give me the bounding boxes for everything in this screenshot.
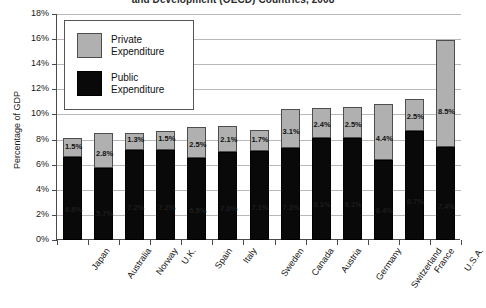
bar-segment-private: 2.4% bbox=[312, 108, 331, 138]
bar-value-label-public: 8.7% bbox=[405, 198, 426, 206]
bar-segment-public: 8.1% bbox=[343, 138, 362, 240]
x-tick-mark bbox=[119, 240, 120, 245]
bar-segment-public: 7.0% bbox=[218, 152, 237, 240]
legend-item-public: Public Expenditure bbox=[77, 71, 164, 96]
bar-segment-private: 2.5% bbox=[187, 127, 206, 158]
x-axis-label: U.S.A. bbox=[463, 246, 486, 273]
bar-value-label-public: 8.1% bbox=[312, 201, 333, 209]
x-tick-mark bbox=[368, 240, 369, 245]
bar-value-label-private: 1.3% bbox=[125, 136, 146, 144]
bar-value-label-private: 1.5% bbox=[156, 135, 177, 143]
legend-public-line1: Public bbox=[111, 72, 138, 83]
bar-segment-private: 1.7% bbox=[250, 130, 269, 151]
bar-segment-private: 1.5% bbox=[156, 131, 175, 150]
bar-segment-public: 8.1% bbox=[312, 138, 331, 240]
legend-private-text: Private Expenditure bbox=[111, 33, 164, 58]
bar-segment-public: 7.4% bbox=[436, 147, 455, 240]
bar-value-label-public: 7.2% bbox=[156, 204, 177, 212]
bar-segment-private: 8.5% bbox=[436, 40, 455, 147]
bar-value-label-private: 1.5% bbox=[63, 143, 84, 151]
x-axis-label: Norway bbox=[154, 246, 180, 277]
y-tick-label: 0% bbox=[5, 234, 49, 244]
bar-value-label-public: 6.5% bbox=[187, 207, 208, 215]
bar-column: 8.1%2.5% bbox=[343, 14, 362, 240]
bar-column: 7.3%3.1% bbox=[281, 14, 300, 240]
x-axis-label: Sweden bbox=[279, 246, 306, 278]
y-tick-label: 18% bbox=[5, 8, 49, 18]
x-tick-mark bbox=[306, 240, 307, 245]
x-tick-mark bbox=[212, 240, 213, 245]
bar-value-label-public: 5.7% bbox=[94, 210, 115, 218]
bar-column: 6.4%4.4% bbox=[374, 14, 393, 240]
bar-segment-public: 6.4% bbox=[374, 160, 393, 240]
x-axis-label: Australia bbox=[125, 246, 153, 280]
x-tick-mark bbox=[461, 240, 462, 245]
legend-public-line2: Expenditure bbox=[111, 84, 164, 95]
bar-value-label-private: 2.4% bbox=[312, 121, 333, 129]
x-tick-mark bbox=[243, 240, 244, 245]
bar-segment-public: 7.3% bbox=[281, 148, 300, 240]
bar-segment-public: 5.7% bbox=[94, 168, 113, 240]
bar-value-label-private: 4.4% bbox=[374, 135, 395, 143]
bar-segment-private: 2.8% bbox=[94, 133, 113, 168]
bar-value-label-public: 7.3% bbox=[281, 204, 302, 212]
bar-segment-public: 7.1% bbox=[250, 151, 269, 240]
bar-column: 7.0%2.1% bbox=[218, 14, 237, 240]
bar-value-label-public: 6.6% bbox=[63, 206, 84, 214]
bar-value-label-public: 6.4% bbox=[374, 207, 395, 215]
bar-segment-private: 2.5% bbox=[405, 99, 424, 130]
public-swatch-icon bbox=[77, 71, 102, 96]
bar-segment-public: 8.7% bbox=[405, 131, 424, 240]
bar-segment-public: 6.5% bbox=[187, 158, 206, 240]
x-axis-label: Italy bbox=[241, 246, 259, 265]
x-tick-mark bbox=[181, 240, 182, 245]
x-tick-mark bbox=[150, 240, 151, 245]
legend-private-line2: Expenditure bbox=[111, 46, 164, 57]
bar-value-label-private: 2.5% bbox=[405, 113, 426, 121]
chart-legend: Private Expenditure Public Expenditure bbox=[64, 20, 194, 110]
bar-value-label-private: 8.5% bbox=[436, 108, 457, 116]
bar-segment-private: 2.1% bbox=[218, 126, 237, 152]
x-axis-label: Canada bbox=[310, 246, 336, 278]
bar-value-label-private: 2.8% bbox=[94, 150, 115, 158]
bar-value-label-private: 2.5% bbox=[187, 141, 208, 149]
x-axis-label: Spain bbox=[213, 246, 234, 271]
y-tick-label: 12% bbox=[5, 83, 49, 93]
x-axis-label: U.K. bbox=[179, 246, 197, 266]
x-axis-labels: JapanAustraliaNorwayU.K.SpainItalySweden… bbox=[56, 246, 460, 308]
y-tick-label: 2% bbox=[5, 209, 49, 219]
x-tick-mark bbox=[430, 240, 431, 245]
bar-value-label-public: 7.0% bbox=[218, 205, 239, 213]
x-axis-label: Japan bbox=[89, 246, 111, 272]
y-tick-label: 10% bbox=[5, 108, 49, 118]
x-tick-mark bbox=[57, 240, 58, 245]
bar-segment-public: 6.6% bbox=[63, 157, 82, 240]
y-tick-label: 6% bbox=[5, 159, 49, 169]
x-tick-mark bbox=[275, 240, 276, 245]
bar-column: 8.1%2.4% bbox=[312, 14, 331, 240]
bar-column: 7.4%8.5% bbox=[436, 14, 455, 240]
bar-segment-private: 1.5% bbox=[63, 138, 82, 157]
bar-value-label-public: 7.1% bbox=[250, 204, 271, 212]
bar-value-label-public: 7.2% bbox=[125, 204, 146, 212]
bar-segment-private: 4.4% bbox=[374, 104, 393, 159]
y-tick-label: 16% bbox=[5, 33, 49, 43]
y-tick-label: 8% bbox=[5, 134, 49, 144]
bar-value-label-public: 7.4% bbox=[436, 203, 457, 211]
y-tick-label: 14% bbox=[5, 58, 49, 68]
legend-public-text: Public Expenditure bbox=[111, 71, 164, 96]
y-tick-label: 4% bbox=[5, 184, 49, 194]
bar-segment-public: 7.2% bbox=[156, 150, 175, 240]
x-tick-mark bbox=[399, 240, 400, 245]
x-tick-mark bbox=[88, 240, 89, 245]
bar-value-label-private: 2.1% bbox=[218, 136, 239, 144]
bar-segment-private: 1.3% bbox=[125, 133, 144, 149]
bar-value-label-public: 8.1% bbox=[343, 201, 364, 209]
bar-column: 8.7%2.5% bbox=[405, 14, 424, 240]
x-axis-label: Austria bbox=[339, 246, 363, 275]
legend-item-private: Private Expenditure bbox=[77, 33, 164, 58]
bar-segment-private: 3.1% bbox=[281, 109, 300, 148]
bar-value-label-private: 2.5% bbox=[343, 121, 364, 129]
bar-column: 7.1%1.7% bbox=[250, 14, 269, 240]
